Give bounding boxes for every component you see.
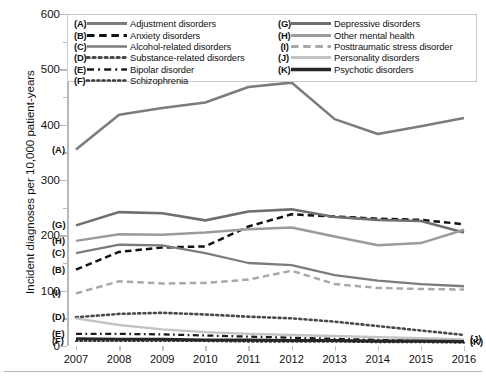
- series-line-B: [76, 214, 464, 269]
- legend-key-K: (K): [278, 64, 291, 75]
- legend-key-B: (B): [74, 30, 87, 41]
- x-tick-mark: [292, 346, 293, 351]
- legend-swatch-I: [291, 41, 331, 52]
- legend-label-F: Schizophrenia: [130, 75, 188, 86]
- legend-key-D: (D): [74, 52, 87, 63]
- x-tick-label: 2012: [270, 353, 314, 365]
- x-tick-label: 2008: [97, 353, 141, 365]
- series-label-I: (I): [52, 287, 61, 298]
- series-label-B: (B): [52, 264, 65, 275]
- legend-swatch-G: [291, 18, 331, 29]
- series-label-K: (K): [470, 336, 483, 347]
- legend-swatch-F: [87, 75, 127, 86]
- legend-item-D: (D)Substance-related disorders: [74, 52, 245, 63]
- legend-item-H: (H)Other mental health: [278, 29, 453, 40]
- x-tick-mark: [421, 346, 422, 351]
- legend-label-C: Alcohol-related disorders: [130, 41, 231, 52]
- footer-rule: [4, 371, 482, 372]
- legend-key-E: (E): [74, 64, 87, 75]
- legend-key-I: (I): [278, 41, 291, 52]
- x-tick-label: 2011: [226, 353, 270, 365]
- legend-swatch-H: [291, 30, 331, 41]
- legend-swatch-C: [87, 41, 127, 52]
- legend-key-F: (F): [74, 75, 87, 86]
- legend-swatch-E: [87, 64, 127, 75]
- x-tick-mark: [205, 346, 206, 351]
- legend-column-right: (G)Depressive disorders(H)Other mental h…: [278, 18, 453, 75]
- x-tick-label: 2016: [442, 353, 486, 365]
- legend-column-left: (A)Adjustment disorders(B)Anxiety disord…: [74, 18, 245, 86]
- legend-item-K: (K)Psychotic disorders: [278, 64, 453, 75]
- legend-label-E: Bipolar disorder: [130, 64, 194, 75]
- legend-swatch-K: [291, 64, 331, 75]
- legend-label-J: Personality disorders: [334, 52, 419, 63]
- legend-item-I: (I)Posttraumatic stress disorder: [278, 41, 453, 52]
- x-tick-label: 2013: [313, 353, 357, 365]
- x-tick-mark: [464, 346, 465, 351]
- series-label-F: (F): [52, 335, 64, 346]
- legend-item-J: (J)Personality disorders: [278, 52, 453, 63]
- x-tick-label: 2014: [356, 353, 400, 365]
- x-tick-mark: [335, 346, 336, 351]
- legend-label-G: Depressive disorders: [334, 18, 420, 29]
- y-tick-mark: [60, 180, 67, 181]
- legend-key-C: (C): [74, 41, 87, 52]
- legend-item-C: (C)Alcohol-related disorders: [74, 41, 245, 52]
- y-tick-mark: [60, 346, 67, 347]
- legend-item-F: (F)Schizophrenia: [74, 75, 245, 86]
- y-tick-mark: [60, 69, 67, 70]
- y-tick-mark-minor: [63, 42, 67, 43]
- legend-key-H: (H): [278, 30, 291, 41]
- y-tick-label: 500: [26, 64, 60, 74]
- legend-item-A: (A)Adjustment disorders: [74, 18, 245, 29]
- chart-legend: (A)Adjustment disorders(B)Anxiety disord…: [67, 14, 477, 82]
- y-tick-label: 300: [26, 175, 60, 185]
- legend-swatch-A: [87, 18, 127, 29]
- legend-label-D: Substance-related disorders: [130, 52, 245, 63]
- legend-label-I: Posttraumatic stress disorder: [334, 41, 453, 52]
- x-tick-mark: [378, 346, 379, 351]
- x-tick-label: 2007: [54, 353, 98, 365]
- y-tick-mark: [60, 14, 67, 15]
- y-tick-mark-minor: [63, 208, 67, 209]
- legend-key-A: (A): [74, 18, 87, 29]
- legend-label-A: Adjustment disorders: [130, 18, 216, 29]
- series-line-D: [76, 313, 464, 335]
- x-tick-mark: [162, 346, 163, 351]
- y-tick-mark: [60, 125, 67, 126]
- legend-swatch-J: [291, 52, 331, 63]
- series-label-A: (A): [52, 144, 65, 155]
- series-label-C: (C): [52, 247, 65, 258]
- x-tick-label: 2015: [399, 353, 443, 365]
- legend-label-B: Anxiety disorders: [130, 30, 200, 41]
- legend-swatch-D: [87, 52, 127, 63]
- legend-label-K: Psychotic disorders: [334, 64, 413, 75]
- legend-swatch-B: [87, 30, 127, 41]
- y-tick-label: 600: [26, 9, 60, 19]
- legend-item-E: (E)Bipolar disorder: [74, 64, 245, 75]
- series-line-C: [76, 245, 464, 286]
- x-tick-mark: [76, 346, 77, 351]
- legend-item-B: (B)Anxiety disorders: [74, 29, 245, 40]
- x-tick-label: 2010: [183, 353, 227, 365]
- chart-figure: Incident diagnoses per 10,000 patient-ye…: [0, 0, 486, 379]
- legend-item-G: (G)Depressive disorders: [278, 18, 453, 29]
- legend-key-J: (J): [278, 52, 291, 63]
- y-tick-mark: [60, 291, 67, 292]
- series-label-G: (G): [52, 219, 66, 230]
- series-line-H: [76, 228, 464, 246]
- legend-key-G: (G): [278, 18, 291, 29]
- x-tick-mark: [248, 346, 249, 351]
- y-tick-label: 400: [26, 120, 60, 130]
- x-tick-label: 2009: [140, 353, 184, 365]
- y-tick-mark-minor: [63, 97, 67, 98]
- x-tick-mark: [119, 346, 120, 351]
- series-label-H: (H): [52, 235, 65, 246]
- series-line-A: [76, 83, 464, 150]
- x-axis-tick-labels: 2007200820092010201120122013201420152016: [0, 349, 486, 371]
- legend-label-H: Other mental health: [334, 30, 414, 41]
- series-label-D: (D): [52, 311, 65, 322]
